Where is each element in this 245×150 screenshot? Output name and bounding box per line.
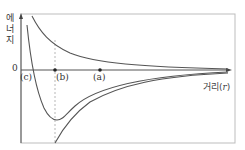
energy-distance-chart — [0, 0, 245, 150]
y-axis-label-char: 에 — [4, 13, 16, 24]
x-axis-label-text: 거리( — [203, 82, 223, 92]
zero-label: 0 — [12, 64, 18, 73]
y-axis-label-char: 지 — [4, 35, 16, 46]
repulsive-energy-curve — [32, 16, 228, 69]
point-c-label: (c) — [20, 73, 32, 82]
y-axis-label-char: 너 — [4, 24, 16, 35]
point-b-label: (b) — [56, 73, 69, 82]
y-axis-label: 에 너 지 — [4, 13, 16, 46]
x-axis-label: 거리(r) — [203, 80, 230, 93]
x-axis-label-close: ) — [227, 82, 231, 92]
chart-frame — [21, 14, 235, 143]
point-a-label: (a) — [93, 73, 105, 82]
